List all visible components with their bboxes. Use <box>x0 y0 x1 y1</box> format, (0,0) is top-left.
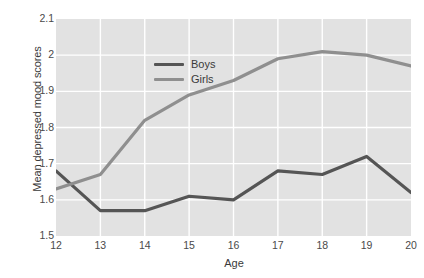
legend-label: Boys <box>191 59 215 70</box>
x-tick-label: 13 <box>85 240 115 251</box>
chart-figure: Mean depressed mood scores 2.121.91.81.7… <box>0 0 424 278</box>
plot-svg <box>56 19 411 236</box>
plot-area: BoysGirls <box>56 19 411 236</box>
x-tick-label: 14 <box>130 240 160 251</box>
y-tick-label: 1.8 <box>14 122 54 133</box>
x-tick-label: 15 <box>174 240 204 251</box>
legend-label: Girls <box>191 74 214 85</box>
x-tick-label: 20 <box>396 240 424 251</box>
y-tick-label: 2.1 <box>14 13 54 24</box>
legend-item-boys: Boys <box>154 57 274 72</box>
x-tick-label: 18 <box>307 240 337 251</box>
y-tick-label: 2 <box>14 49 54 60</box>
x-tick-label: 19 <box>352 240 382 251</box>
y-tick-label: 1.9 <box>14 85 54 96</box>
x-tick-label: 17 <box>263 240 293 251</box>
y-tick-label: 1.5 <box>14 230 54 241</box>
y-tick-label: 1.7 <box>14 158 54 169</box>
legend-swatch-boys <box>154 63 184 67</box>
y-tick-label: 1.6 <box>14 194 54 205</box>
x-tick-label: 16 <box>219 240 249 251</box>
legend-item-girls: Girls <box>154 72 274 87</box>
x-axis-title: Age <box>56 257 412 269</box>
x-tick-label: 12 <box>41 240 71 251</box>
legend-swatch-girls <box>154 78 184 82</box>
chart-legend: BoysGirls <box>154 57 274 87</box>
